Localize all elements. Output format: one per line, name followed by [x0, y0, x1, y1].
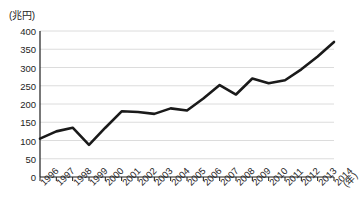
data-series-line — [40, 31, 334, 177]
y-tick-label: 350 — [2, 44, 36, 55]
y-tick-label: 150 — [2, 117, 36, 128]
y-axis-unit-label: (兆円) — [9, 7, 35, 22]
y-tick-label: 0 — [2, 172, 36, 183]
y-tick-label: 200 — [2, 99, 36, 110]
y-tick-label: 50 — [2, 153, 36, 164]
y-tick-label: 400 — [2, 26, 36, 37]
plot-area — [40, 31, 334, 177]
y-axis-tick-labels: 050100150200250300350400 — [0, 31, 36, 177]
y-tick-label: 250 — [2, 80, 36, 91]
x-axis-tick-labels: 1996199719981999200020012002200320042005… — [40, 177, 334, 219]
y-tick-label: 300 — [2, 62, 36, 73]
y-tick-label: 100 — [2, 135, 36, 146]
